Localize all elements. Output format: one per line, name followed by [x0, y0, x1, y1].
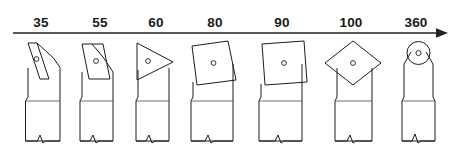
insert-60: [137, 43, 173, 80]
insert-hole-icon: [282, 61, 287, 66]
column-label-55: 55: [92, 15, 108, 30]
insert-hole-icon: [94, 59, 99, 64]
tool-assembly-90: [259, 41, 307, 143]
tool-assembly-80: [191, 41, 236, 143]
column-label-80: 80: [207, 15, 222, 30]
tool-assembly-360: [402, 42, 435, 144]
column-label-100: 100: [339, 15, 362, 30]
insert-hole-icon: [34, 57, 39, 62]
increasing-strength-arrow: [13, 28, 448, 38]
column-label-90: 90: [274, 15, 289, 30]
tool-assembly-60: [136, 43, 173, 143]
column-label-35: 35: [33, 15, 49, 30]
column-label-360: 360: [404, 15, 427, 30]
tool-assembly-100: [325, 41, 381, 143]
insert-nose-angle-diagram: 35 55 60 80 90 100 360: [0, 0, 454, 151]
column-label-60: 60: [148, 15, 163, 30]
insert-hole-icon: [146, 59, 151, 64]
insert-hole-icon: [211, 61, 216, 66]
tool-assembly-35: [26, 43, 61, 143]
insert-hole-icon: [351, 61, 356, 66]
tool-assembly-55: [80, 44, 113, 143]
insert-hole-icon: [416, 50, 421, 55]
